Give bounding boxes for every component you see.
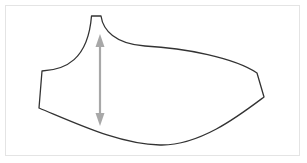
arrow-head-up-icon bbox=[96, 34, 105, 47]
pattern-piece-outline bbox=[39, 16, 264, 145]
measurement-arrow bbox=[96, 34, 105, 126]
pattern-diagram bbox=[0, 0, 307, 163]
arrow-head-down-icon bbox=[96, 113, 105, 126]
